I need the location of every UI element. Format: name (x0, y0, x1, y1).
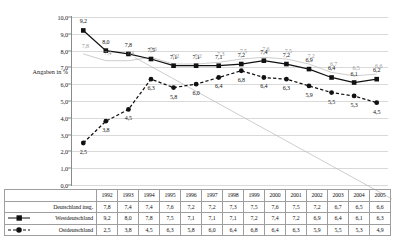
table-row-label: Westdeutschland (55, 215, 93, 221)
table-column-header: 1994 (139, 190, 160, 202)
table-cell: 7,5 (244, 201, 265, 213)
table-row-label: Ostdeutschland (59, 227, 93, 233)
data-label: 7,4 (104, 50, 111, 56)
data-label: 5,3 (351, 102, 358, 108)
table-cell: 6,8 (244, 224, 265, 236)
table-cell: 7,2 (286, 213, 307, 225)
table-cell: 7,4 (139, 201, 160, 213)
data-label: 7,4 (260, 49, 267, 55)
table-row: Westdeutschland9,28,07,87,57,17,17,17,27… (5, 213, 391, 225)
table-cell: 7,8 (139, 213, 160, 225)
data-label: 4,5 (125, 115, 132, 121)
table-column-header: 1995 (160, 190, 181, 202)
data-point-marker (374, 100, 379, 105)
table-cell: 6,7 (328, 201, 349, 213)
gridline (72, 185, 388, 186)
table-cell: 7,4 (118, 201, 139, 213)
data-point-marker (284, 62, 289, 67)
table-cell: 6,1 (349, 213, 370, 225)
table-row: Deutschland insg.7,87,47,47,67,27,27,37,… (5, 201, 391, 213)
data-label: 5,9 (305, 92, 312, 98)
table-cell: 6,4 (223, 224, 244, 236)
data-label: 7,4 (127, 50, 134, 56)
data-point-marker (194, 63, 199, 68)
table-header-row: 1992199319941995199619971998199920002001… (5, 190, 391, 202)
data-label: 7,8 (82, 43, 89, 49)
data-point-marker (149, 57, 154, 62)
table-cell: 6,0 (202, 224, 223, 236)
data-label: 6,3 (147, 85, 154, 91)
data-point-marker (239, 62, 244, 67)
table-corner-cell (5, 190, 97, 202)
table-cell: 7,1 (202, 213, 223, 225)
data-label: 7,1 (193, 54, 200, 60)
table-cell: 7,5 (160, 213, 181, 225)
table-cell: 2,5 (97, 224, 118, 236)
y-tick-label: 9,0 (61, 30, 68, 37)
table-cell: 7,4 (265, 213, 286, 225)
y-tick-label: 10,0 (58, 14, 68, 21)
table-column-header: 2004 (349, 190, 370, 202)
data-point-marker (81, 141, 86, 146)
legend-square-marker-icon (8, 215, 30, 222)
table-cell: 7,2 (307, 201, 328, 213)
chart-area: 0,01,02,03,04,05,06,07,08,09,010,0 Angab… (0, 0, 395, 190)
y-tick-label: 8,0 (61, 47, 68, 54)
table-cell: 7,6 (265, 201, 286, 213)
table-cell: 6,6 (370, 201, 391, 213)
data-point-marker (262, 58, 267, 63)
table-column-header: 2000 (265, 190, 286, 202)
table-row: Ostdeutschland2,53,84,56,35,86,06,46,86,… (5, 224, 391, 236)
data-label: 7,2 (238, 52, 245, 58)
data-label: 6,1 (351, 71, 358, 77)
table-cell: 6,5 (349, 201, 370, 213)
data-point-marker (126, 107, 131, 112)
table-cell: 7,8 (97, 201, 118, 213)
data-label: 7,8 (125, 42, 132, 48)
table-row-header: Westdeutschland (5, 213, 97, 225)
data-point-marker (352, 80, 357, 85)
legend-circle-marker-icon (8, 226, 30, 233)
y-tick-label: 2,0 (61, 148, 68, 155)
data-label: 6,4 (328, 65, 335, 71)
data-label: 6,0 (193, 90, 200, 96)
y-tick-label: 4,0 (61, 114, 68, 121)
table-cell: 7,2 (202, 201, 223, 213)
data-point-marker (284, 77, 289, 82)
table-cell: 6,4 (265, 224, 286, 236)
data-label: 6,4 (260, 83, 267, 89)
table-row-header: Deutschland insg. (5, 201, 97, 213)
table-cell: 7,3 (223, 201, 244, 213)
table-cell: 7,2 (181, 201, 202, 213)
data-label: 6,3 (283, 85, 290, 91)
table-column-header: 1993 (118, 190, 139, 202)
data-point-marker (261, 75, 266, 80)
table-cell: 6,9 (307, 213, 328, 225)
data-label: 4,5 (373, 109, 380, 115)
data-label: 8,0 (102, 39, 109, 45)
table-cell: 7,2 (244, 213, 265, 225)
table-cell: 5,3 (349, 224, 370, 236)
data-label: 5,5 (328, 99, 335, 105)
y-tick-label: 3,0 (61, 131, 68, 138)
data-label: 6,2 (373, 67, 380, 73)
table-column-header: 1998 (223, 190, 244, 202)
data-label: 6,8 (238, 77, 245, 83)
table-column-header: 1997 (202, 190, 223, 202)
data-point-marker (239, 68, 244, 73)
data-point-marker (307, 83, 312, 88)
table-cell: 7,6 (160, 201, 181, 213)
data-point-marker (216, 75, 221, 80)
data-label: 9,2 (80, 18, 87, 24)
data-point-marker (171, 85, 176, 90)
series-line (83, 71, 376, 143)
data-point-marker (216, 63, 221, 68)
table-cell: 4,9 (370, 224, 391, 236)
y-tick-label: 6,0 (61, 81, 68, 88)
y-tick-label: 5,0 (61, 98, 68, 105)
series-lines (72, 17, 388, 185)
table-cell: 3,8 (118, 224, 139, 236)
y-tick-label: 0,0 (61, 182, 68, 189)
table-column-header: 2001 (286, 190, 307, 202)
data-label: 3,8 (102, 127, 109, 133)
